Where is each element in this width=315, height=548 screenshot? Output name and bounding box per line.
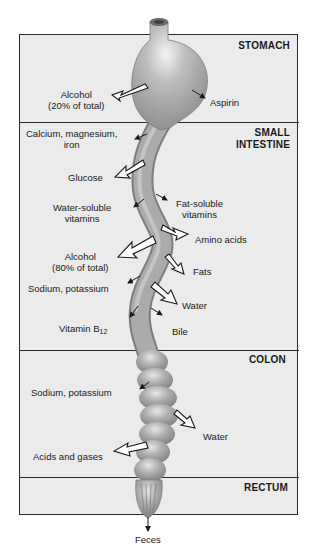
label-sodium-potassium-colon: Sodium, potassium: [31, 387, 112, 398]
label-vitamin-b12: Vitamin B12: [59, 323, 107, 334]
label-alcohol-stomach: Alcohol (20% of total): [48, 89, 105, 111]
digestive-tract-illustration: [0, 0, 315, 548]
label-fat-soluble-vitamins: Fat-soluble vitamins: [176, 198, 223, 220]
label-minerals: Calcium, magnesium, iron: [26, 128, 117, 150]
arrow-bile: [151, 308, 162, 315]
section-title-stomach: STOMACH: [238, 40, 290, 52]
rectum-shape: [136, 480, 163, 518]
label-bile: Bile: [172, 326, 188, 337]
stomach-shape: [132, 19, 208, 131]
label-feces: Feces: [135, 534, 161, 545]
label-sodium-potassium-small-intestine: Sodium, potassium: [28, 283, 109, 294]
label-water-colon: Water: [203, 431, 228, 442]
label-glucose: Glucose: [68, 172, 103, 183]
label-water-small-intestine: Water: [182, 300, 207, 311]
section-title-small-intestine: SMALL INTESTINE: [236, 127, 290, 151]
colon-segments: [134, 350, 178, 482]
label-fats: Fats: [193, 266, 211, 277]
label-amino-acids: Amino acids: [195, 234, 247, 245]
section-title-colon: COLON: [249, 354, 286, 366]
section-title-rectum: RECTUM: [244, 482, 288, 494]
label-aspirin: Aspirin: [210, 97, 239, 108]
label-acids-gases: Acids and gases: [33, 451, 103, 462]
label-water-soluble-vitamins: Water-soluble vitamins: [53, 202, 111, 224]
arrow-fat-soluble-vitamins: [156, 194, 167, 200]
label-alcohol-small-intestine: Alcohol (80% of total): [52, 251, 109, 273]
